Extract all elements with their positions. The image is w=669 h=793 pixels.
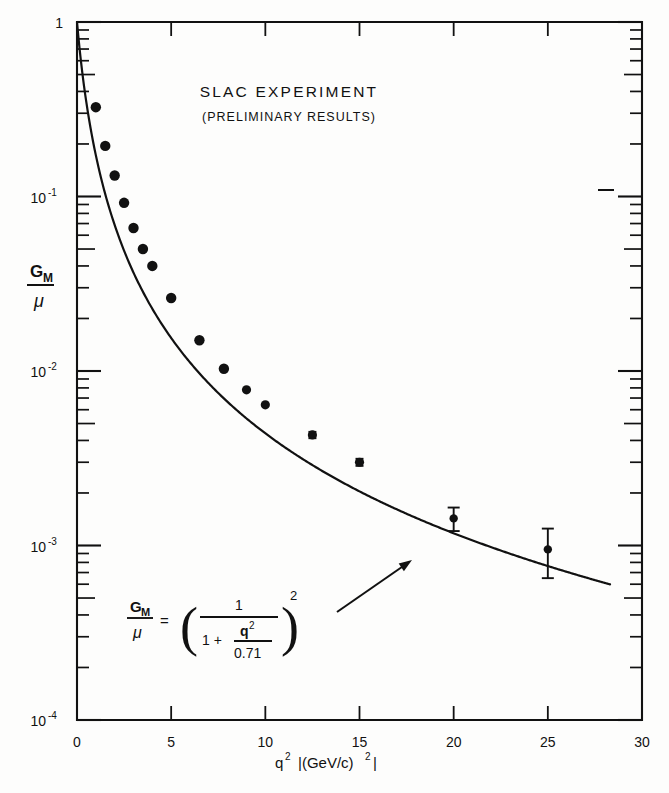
data-point [128,223,138,233]
data-point [91,102,101,112]
x-axis-label-bar-close: | [373,754,377,771]
data-point [355,458,364,467]
data-point [242,385,251,394]
chart-title: SLAC EXPERIMENT [200,83,379,100]
data-point [449,514,457,522]
y-tick-label-mantissa: 10 [30,713,46,729]
dipole-fit-curve [77,22,610,584]
x-axis-label-units: |(GeV/c) [298,754,354,771]
data-point [194,335,204,345]
x-axis-label-units-exponent: 2 [365,751,371,762]
data-point [261,400,270,409]
equation-outer-exponent: 2 [290,588,297,603]
data-point [147,261,157,271]
data-point [544,545,552,553]
equation-equals-sign: = [160,612,169,629]
x-tick-label: 20 [446,734,462,750]
x-tick-label: 15 [352,734,368,750]
data-point [119,198,129,208]
equation-annotation: G M μ = ( ) 1 1 + q 2 0.71 2 [127,588,299,661]
y-axis-label: G M μ [27,262,54,311]
data-point [109,170,119,180]
chart-subtitle: (PRELIMINARY RESULTS) [202,110,376,124]
y-tick-label: 10-2 [30,361,57,380]
x-tick-label: 30 [634,734,650,750]
y-tick-label-exponent: -3 [48,536,57,547]
x-tick-label: 10 [258,734,274,750]
x-tick-label: 25 [540,734,556,750]
equation-lhs-denominator: μ [132,624,142,641]
y-tick-label-mantissa: 10 [30,364,46,380]
data-point [166,293,176,303]
equation-inner-numerator: 1 [235,597,243,613]
equation-inner-q: q [240,623,249,639]
data-points [91,102,552,554]
y-axis-label-denominator: μ [33,291,44,311]
equation-inner-0-71: 0.71 [234,645,261,661]
equation-paren-close: ) [281,597,299,657]
arrow-shaft [337,564,406,612]
arrow-head [399,560,412,571]
x-axis-tick-labels: 051015202530 [73,734,650,750]
y-tick-label-exponent: -2 [48,361,57,372]
equation-lhs-numerator: G [130,598,142,615]
y-tick-label-mantissa: 10 [30,190,46,206]
x-axis-label-q: q [275,754,283,771]
annotation-arrow [337,560,412,612]
form-factor-plot: 110-110-210-310-4 051015202530 SLAC EXPE… [0,0,669,793]
y-tick-label-exponent: -4 [48,710,57,721]
y-axis-label-numerator: G [30,262,43,281]
equation-inner-q-exponent: 2 [249,620,255,631]
equation-inner-denominator-one: 1 + [202,632,222,648]
y-tick-label-mantissa: 10 [30,539,46,555]
equation-paren-open: ( [180,597,198,657]
figure-canvas: 110-110-210-310-4 051015202530 SLAC EXPE… [0,0,669,793]
x-tick-label: 5 [167,734,175,750]
y-tick-label: 10-3 [30,536,57,555]
data-point [138,244,148,254]
equation-lhs-subscript: M [141,606,150,618]
x-axis-label-q-exponent: 2 [285,751,291,762]
y-tick-label-text: 1 [55,15,63,31]
y-axis-label-numerator-subscript: M [43,271,53,285]
x-axis-label: q 2 |(GeV/c) 2 | [275,751,377,771]
data-point [100,141,110,151]
data-point [308,430,317,439]
y-tick-label-exponent: -1 [48,187,57,198]
y-tick-label: 10-1 [30,187,57,206]
y-axis-tick-labels: 110-110-210-310-4 [30,15,63,729]
x-tick-label: 0 [73,734,81,750]
data-point [219,364,229,374]
y-tick-label: 1 [55,15,63,31]
y-tick-label: 10-4 [30,710,57,729]
